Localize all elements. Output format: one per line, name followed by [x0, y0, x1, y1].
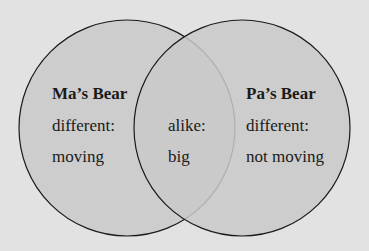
right-title: Pa’s Bear	[246, 85, 316, 102]
right-line1: different:	[246, 117, 309, 134]
overlap-line2: big	[168, 148, 190, 165]
right-line2: not moving	[246, 148, 324, 165]
left-title: Ma’s Bear	[52, 85, 127, 102]
left-line1: different:	[52, 117, 115, 134]
left-line2: moving	[52, 148, 104, 165]
overlap-line1: alike:	[168, 117, 206, 134]
right-circle	[134, 20, 350, 236]
